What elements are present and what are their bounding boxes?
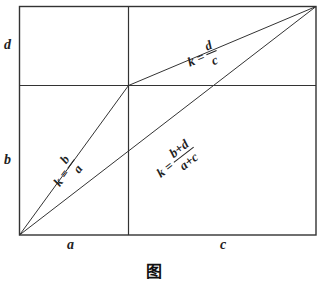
label-a: a bbox=[67, 237, 74, 253]
label-c: c bbox=[220, 237, 226, 253]
figure-caption: 图 bbox=[146, 258, 168, 282]
label-b: b bbox=[4, 152, 11, 168]
label-d: d bbox=[4, 37, 11, 53]
diagonal-segment bbox=[20, 7, 317, 236]
segment-d-over-c bbox=[129, 7, 317, 86]
